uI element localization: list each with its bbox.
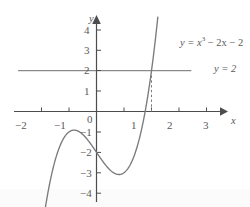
x-axis-label: x [231,116,236,127]
y-tick-label--2: −2 [80,147,92,158]
y-tick-label--1: −1 [80,127,92,138]
y-tick-label-4: 4 [84,25,90,36]
x-tick-label-2: 2 [167,120,173,131]
horizontal-line-label: y = 2 [214,64,236,75]
cubic-label-lhs: y = [180,37,197,48]
graph-figure: y x 0 −2 −1 1 2 3 4 3 2 1 −1 −2 −3 −4 y … [0,0,250,207]
x-tick-label-1: 1 [131,120,137,131]
y-tick-label--3: −3 [80,168,92,179]
x-tick-label--2: −2 [15,120,27,131]
cubic-label-rest: − 2x − 2 [205,37,243,48]
cubic-curve-label: y = x3 − 2x − 2 [180,36,243,48]
y-tick-label-2: 2 [84,65,90,76]
y-axis-label: y [89,14,94,25]
x-tick-label-3: 3 [203,120,209,131]
y-tick-label-3: 3 [84,45,90,56]
x-axis-arrowhead [220,107,228,116]
origin-label: 0 [87,114,93,125]
y-tick-label--4: −4 [80,188,92,199]
y-tick-label-1: 1 [84,86,90,97]
x-tick-label--1: −1 [54,120,66,131]
plot-canvas [0,0,250,207]
